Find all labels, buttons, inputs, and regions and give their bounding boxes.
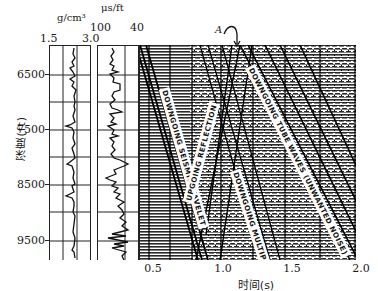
time-tick-1.0: 1.0: [214, 263, 232, 274]
tick-9500: [45, 240, 49, 241]
annotation-arrow-icon: [222, 22, 242, 48]
depth-tick-8500: 8500: [9, 179, 45, 190]
density-log-track: [49, 45, 91, 260]
density-log-curve: [50, 46, 90, 260]
density-unit-label: g/cm³: [57, 13, 86, 23]
vsp-seismic-panel: DOWNGOING SEISMIC WAVELET UPGOING REFLEC…: [139, 45, 356, 260]
depth-tick-6500: 6500: [9, 69, 45, 80]
sonic-log-curve: [98, 46, 138, 260]
time-tick-1.5: 1.5: [283, 263, 301, 274]
depth-tick-9500: 9500: [9, 235, 45, 246]
sonic-unit-label: μs/ft: [101, 3, 124, 13]
sonic-scale-right: 40: [130, 23, 144, 33]
time-tick-2.0: 2.0: [352, 263, 370, 274]
depth-tick-7500: 7500: [9, 124, 45, 135]
density-scale-min: 1.5: [40, 34, 58, 44]
tick-8500: [45, 184, 49, 185]
sonic-log-track: [97, 45, 139, 260]
density-scale-max: 3.0: [82, 34, 100, 44]
time-axis-label: 时间(s): [238, 276, 274, 291]
tick-7500: [45, 129, 49, 130]
time-tick-0.5: 0.5: [144, 263, 162, 274]
tick-6500: [45, 74, 49, 75]
